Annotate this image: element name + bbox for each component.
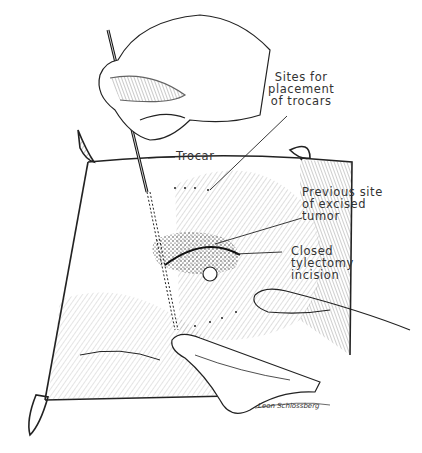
upper-hand xyxy=(99,15,270,140)
label-trocar: Trocar xyxy=(176,150,215,162)
label-tumor-site: Previous site of excised tumor xyxy=(302,186,383,222)
label-trocar-sites: Sites for placement of trocars xyxy=(268,71,334,107)
artist-signature: Leon Schlossberg xyxy=(258,400,319,412)
label-incision: Closed tylectomy incision xyxy=(291,245,354,281)
drawing xyxy=(0,0,422,453)
illustration: Sites for placement of trocars Trocar Pr… xyxy=(0,0,422,453)
nipple xyxy=(203,267,217,281)
